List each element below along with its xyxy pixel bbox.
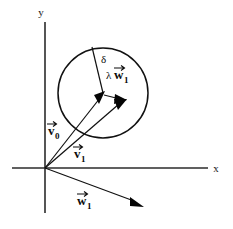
- vector-w1-label: w 1: [77, 192, 92, 212]
- vector-w1-arrowhead: [130, 197, 144, 207]
- lambda-w1-label-base: w: [114, 67, 124, 82]
- vector-diagram-figure: y x δ v: [0, 0, 233, 229]
- axes-group: [12, 22, 208, 213]
- w1-label-subscript: 1: [87, 201, 92, 211]
- v1-label-subscript: 1: [81, 154, 86, 164]
- lambda-w1-label-subscript: 1: [124, 75, 129, 85]
- delta-label: δ: [101, 53, 106, 65]
- w1-label-base: w: [77, 193, 87, 208]
- vector-v0-label: v 0: [47, 122, 60, 142]
- y-axis-label: y: [38, 6, 44, 18]
- vector-lambda-w1-label: λ w 1: [106, 66, 129, 86]
- x-axis-label: x: [213, 162, 219, 174]
- delta-radius-group: δ: [92, 47, 106, 93]
- vector-w1: [45, 168, 144, 207]
- v0-label-subscript: 0: [55, 131, 60, 141]
- vector-v0-arrowhead: [94, 91, 105, 104]
- diagram-canvas: y x δ v: [0, 0, 233, 229]
- v0-label-base: v: [48, 123, 55, 138]
- vector-v1-label: v 1: [73, 145, 86, 165]
- vector-w1-shaft: [45, 168, 134, 201]
- lambda-symbol: λ: [106, 69, 112, 81]
- v1-label-base: v: [74, 146, 81, 161]
